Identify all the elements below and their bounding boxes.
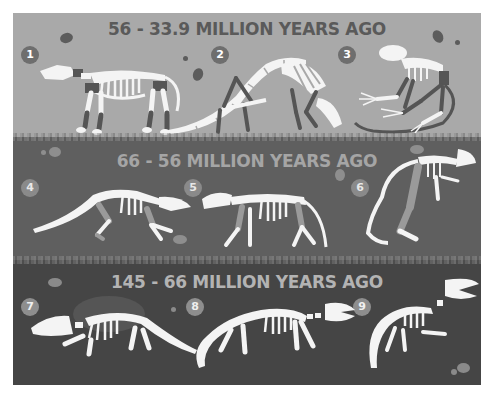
pebble	[335, 169, 345, 181]
broad-headed-mammal-skeleton-icon	[29, 292, 199, 372]
primate-like-mammal-skeleton-icon	[353, 43, 473, 137]
band-title: 56 - 33.9 MILLION YEARS AGO	[13, 19, 481, 39]
long-tailed-mammal-skeleton-icon	[191, 290, 361, 372]
pebble	[41, 150, 46, 155]
tapir-like-mammal-skeleton-icon	[35, 53, 185, 135]
rock-layer-edge	[13, 133, 481, 141]
pebble	[48, 278, 62, 287]
band-eocene: 56 - 33.9 MILLION YEARS AGO 1 2 3	[13, 13, 481, 137]
fossil-timeline-infographic: 56 - 33.9 MILLION YEARS AGO 1 2 3	[13, 13, 481, 385]
crocodile-headed-reptile-skeleton-icon	[361, 276, 481, 376]
pebble	[49, 147, 61, 157]
lizard-like-mammal-skeleton-icon	[31, 181, 196, 245]
rodent-like-mammal-skeleton-icon	[198, 185, 348, 255]
band-cretaceous: 145 - 66 MILLION YEARS AGO 7 8 9	[13, 260, 481, 385]
anteater-like-mammal-skeleton-icon	[166, 46, 346, 136]
band-paleocene: 66 - 56 MILLION YEARS AGO 4 5 6	[13, 137, 481, 260]
rock-layer-edge	[13, 256, 481, 264]
hunched-mammal-skeleton-icon	[358, 147, 478, 257]
